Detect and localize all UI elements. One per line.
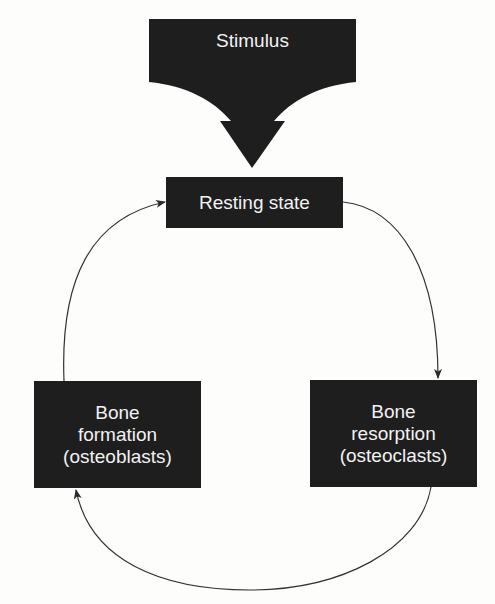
bone-remodeling-cycle-diagram: Stimulus Resting state Bone resorption (… <box>0 0 495 604</box>
resting-state-node: Resting state <box>166 177 343 228</box>
arrow-formation-to-resting <box>64 202 165 381</box>
bone-resorption-node: Bone resorption (osteoclasts) <box>310 380 477 487</box>
bone-formation-line-1: Bone <box>95 402 139 424</box>
diagram-graphics <box>0 0 495 604</box>
bone-formation-line-2: formation <box>78 424 157 446</box>
bone-resorption-line-1: Bone <box>371 401 415 423</box>
bone-formation-line-3: (osteoblasts) <box>63 446 172 468</box>
resting-state-label: Resting state <box>199 192 310 214</box>
bone-resorption-line-2: resorption <box>351 423 436 445</box>
bone-resorption-line-3: (osteoclasts) <box>340 445 448 467</box>
bone-formation-node: Bone formation (osteoblasts) <box>34 381 201 488</box>
stimulus-label: Stimulus <box>149 30 356 52</box>
arrow-resting-to-resorption <box>343 202 438 378</box>
arrow-resorption-to-formation <box>76 487 431 590</box>
